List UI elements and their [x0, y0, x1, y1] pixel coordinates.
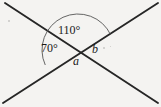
geometry-figure: 110° 70° b a	[0, 0, 161, 107]
scan-speck	[8, 20, 10, 22]
scan-speck	[103, 47, 105, 49]
angle-label-70: 70°	[41, 42, 58, 54]
angle-label-a: a	[73, 55, 79, 67]
angle-label-110: 110°	[58, 24, 80, 36]
scan-speck	[110, 46, 111, 47]
diagram-canvas	[0, 0, 161, 107]
angle-label-b: b	[92, 43, 98, 55]
